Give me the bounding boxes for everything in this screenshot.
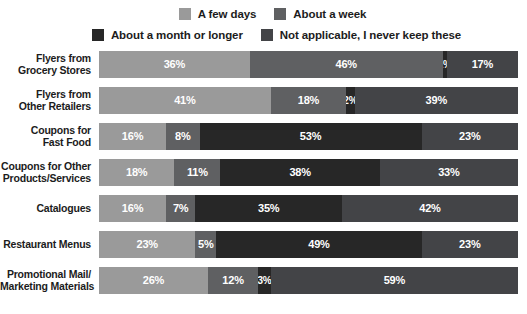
bar-row: Flyers fromOther Retailers41%18%2%39% [0, 82, 527, 118]
bar-segment[interactable]: 39% [355, 87, 518, 114]
category-label-line: Fast Food [0, 136, 91, 149]
category-label-line: Flyers from [0, 52, 91, 65]
bar-segment[interactable]: 16% [99, 195, 166, 222]
legend-item-not-applicable[interactable]: Not applicable, I never keep these [261, 29, 461, 41]
bar-segment[interactable]: 41% [99, 87, 271, 114]
category-label: Flyers fromOther Retailers [0, 88, 99, 113]
bar-segment-value: 3% [258, 275, 271, 286]
legend-item-a-few-days[interactable]: A few days [179, 8, 257, 20]
bar-segment-value: 23% [459, 130, 480, 142]
category-label: Flyers fromGrocery Stores [0, 52, 99, 77]
bar-segment-value: 17% [472, 58, 493, 70]
bar-track: 18%11%38%33% [99, 159, 518, 186]
bar-segment-value: 33% [438, 166, 459, 178]
bar-segment-value: 8% [175, 130, 191, 142]
bar-track: 26%12%3%59% [99, 267, 518, 294]
category-label: Coupons forFast Food [0, 124, 99, 149]
bar-track: 16%8%53%23% [99, 123, 518, 150]
bar-row: Coupons forFast Food16%8%53%23% [0, 118, 527, 154]
bar-segment-value: 38% [289, 166, 310, 178]
bar-row: Promotional Mail/Marketing Materials26%1… [0, 262, 527, 298]
bar-track: 41%18%2%39% [99, 87, 518, 114]
bar-segment[interactable]: 38% [220, 159, 379, 186]
bar-segment[interactable]: 11% [174, 159, 220, 186]
category-label: Catalogues [0, 202, 99, 215]
legend-item-about-a-month-or-longer[interactable]: About a month or longer [92, 29, 243, 41]
category-label-line: Catalogues [0, 202, 91, 215]
category-label: Promotional Mail/Marketing Materials [0, 268, 99, 293]
bar-segment[interactable]: 5% [195, 231, 216, 258]
category-label-line: Grocery Stores [0, 64, 91, 77]
bar-segment-value: 26% [143, 274, 164, 286]
category-label-line: Other Retailers [0, 100, 91, 113]
bar-segment[interactable]: 17% [447, 51, 518, 78]
legend-swatch-not-applicable [261, 29, 273, 41]
bar-segment[interactable]: 26% [99, 267, 208, 294]
category-label: Restaurant Menus [0, 238, 99, 251]
bar-segment[interactable]: 2% [346, 87, 354, 114]
bar-segment-value: 23% [136, 238, 157, 250]
bar-track: 36%46%1%17% [99, 51, 518, 78]
bar-segment-value: 46% [335, 58, 356, 70]
bar-segment[interactable]: 23% [422, 123, 518, 150]
category-label-line: Products/Services [0, 172, 91, 185]
bar-segment-value: 12% [222, 274, 243, 286]
bar-segment[interactable]: 23% [422, 231, 518, 258]
chart-plot-area: Flyers fromGrocery Stores36%46%1%17%Flye… [0, 46, 527, 298]
legend-swatch-about-a-month-or-longer [92, 29, 104, 41]
bar-track: 16%7%35%42% [99, 195, 518, 222]
bar-segment-value: 53% [300, 130, 321, 142]
legend-swatch-a-few-days [179, 8, 191, 20]
bar-segment[interactable]: 33% [380, 159, 518, 186]
bar-row: Catalogues16%7%35%42% [0, 190, 527, 226]
bar-segment[interactable]: 18% [99, 159, 174, 186]
bar-segment[interactable]: 12% [208, 267, 258, 294]
legend-label-about-a-week: About a week [293, 8, 366, 20]
bar-segment[interactable]: 16% [99, 123, 166, 150]
chart-legend: A few daysAbout a weekAbout a month or l… [0, 0, 527, 45]
bar-segment-value: 23% [459, 238, 480, 250]
bar-segment[interactable]: 46% [250, 51, 443, 78]
bar-segment-value: 7% [173, 202, 189, 214]
category-label-line: Coupons for Other [0, 160, 91, 173]
legend-item-about-a-week[interactable]: About a week [274, 8, 366, 20]
bar-segment[interactable]: 42% [342, 195, 518, 222]
category-label-line: Coupons for [0, 124, 91, 137]
bar-row: Coupons for OtherProducts/Services18%11%… [0, 154, 527, 190]
bar-segment-value: 59% [384, 274, 405, 286]
bar-segment-value: 16% [122, 202, 143, 214]
bar-segment-value: 18% [298, 94, 319, 106]
bar-segment[interactable]: 23% [99, 231, 195, 258]
category-label-line: Promotional Mail/ [0, 268, 91, 281]
bar-segment-value: 41% [174, 94, 195, 106]
category-label: Coupons for OtherProducts/Services [0, 160, 99, 185]
legend-label-not-applicable: Not applicable, I never keep these [280, 29, 461, 41]
legend-label-a-few-days: A few days [198, 8, 257, 20]
bar-segment[interactable]: 18% [271, 87, 346, 114]
legend-label-about-a-month-or-longer: About a month or longer [111, 29, 243, 41]
bar-segment[interactable]: 8% [166, 123, 200, 150]
bar-segment-value: 16% [122, 130, 143, 142]
stacked-bar-chart: A few daysAbout a weekAbout a month or l… [0, 0, 527, 314]
bar-segment-value: 36% [164, 58, 185, 70]
bar-segment[interactable]: 35% [195, 195, 342, 222]
category-label-line: Flyers from [0, 88, 91, 101]
bar-segment-value: 35% [258, 202, 279, 214]
legend-row: About a month or longerNot applicable, I… [0, 24, 527, 45]
bar-segment[interactable]: 7% [166, 195, 195, 222]
bar-segment[interactable]: 36% [99, 51, 250, 78]
bar-segment[interactable]: 59% [271, 267, 518, 294]
bar-segment[interactable]: 3% [258, 267, 271, 294]
bar-segment[interactable]: 49% [216, 231, 421, 258]
bar-row: Flyers fromGrocery Stores36%46%1%17% [0, 46, 527, 82]
category-label-line: Restaurant Menus [0, 238, 91, 251]
bar-segment-value: 18% [126, 166, 147, 178]
legend-swatch-about-a-week [274, 8, 286, 20]
bar-segment-value: 49% [308, 238, 329, 250]
bar-segment-value: 2% [346, 95, 354, 106]
bar-row: Restaurant Menus23%5%49%23% [0, 226, 527, 262]
bar-track: 23%5%49%23% [99, 231, 518, 258]
legend-row: A few daysAbout a week [0, 3, 527, 24]
bar-segment-value: 5% [198, 238, 214, 250]
bar-segment[interactable]: 53% [200, 123, 422, 150]
